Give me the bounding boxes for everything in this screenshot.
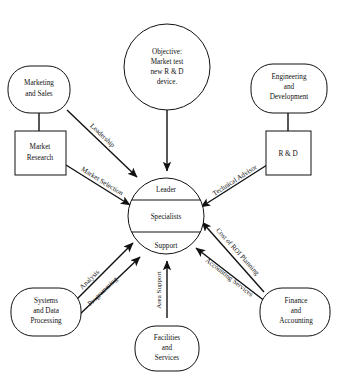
- node-finance-and-accounting: Finance and Accounting: [260, 288, 330, 336]
- node-facilities-line-2: Services: [155, 354, 180, 362]
- edge-leadership: [67, 110, 137, 177]
- node-r-and-d: R & D: [266, 131, 311, 175]
- edge-market-selection: [66, 165, 130, 205]
- node-objective-line-1: Market test: [151, 58, 184, 66]
- node-finance-line-1: and: [291, 307, 302, 315]
- center-band-specialists: Specialists: [151, 213, 182, 221]
- network-diagram: Objective: Market test new R & D device.…: [0, 0, 338, 383]
- svg-text:Leadership: Leadership: [88, 122, 116, 150]
- edge-label-area-support: Area Support: [155, 271, 163, 309]
- node-objective-line-0: Objective:: [152, 48, 182, 56]
- center-band-support: Support: [155, 242, 178, 250]
- node-marketing-line-1: and Sales: [25, 90, 53, 98]
- edge-label-analysis: Analysis: [78, 268, 101, 291]
- node-market-research-line-1: Research: [27, 154, 54, 162]
- edge-technical-advisor: [201, 165, 267, 207]
- svg-text:Analysis: Analysis: [78, 268, 101, 291]
- node-finance-line-0: Finance: [285, 297, 308, 305]
- node-engineering-line-0: Engineering: [271, 73, 307, 81]
- node-center-team: Leader Specialists Support: [128, 178, 204, 254]
- diagram-canvas: Objective: Market test new R & D device.…: [0, 0, 338, 383]
- center-band-leader: Leader: [156, 186, 177, 194]
- node-facilities-line-0: Facilities: [154, 334, 181, 342]
- node-engineering-line-2: Development: [270, 93, 309, 101]
- node-systems-and-data-processing: Systems and Data Processing: [11, 288, 81, 336]
- node-marketing-line-0: Marketing: [24, 79, 54, 87]
- node-objective-line-3: device.: [157, 78, 178, 86]
- node-engineering-and-development: Engineering and Development: [251, 64, 327, 113]
- edge-label-market-selection: Market Selection: [80, 165, 125, 197]
- svg-text:Market Selection: Market Selection: [80, 165, 125, 197]
- node-objective: Objective: Market test new R & D device.: [124, 24, 210, 110]
- edge-label-technical-advisor: Technical Advisor: [211, 163, 259, 198]
- node-systems-line-1: and Data: [33, 307, 60, 315]
- node-market-research-line-0: Market: [30, 143, 51, 151]
- node-systems-line-2: Processing: [30, 317, 62, 325]
- node-finance-line-2: Accounting: [279, 317, 313, 325]
- edge-label-leadership: Leadership: [88, 122, 116, 150]
- node-market-research: Market Research: [15, 131, 66, 175]
- node-marketing-and-sales: Marketing and Sales: [8, 66, 70, 113]
- node-systems-line-0: Systems: [34, 297, 58, 305]
- node-r-and-d-line-0: R & D: [278, 150, 297, 158]
- node-objective-line-2: new R & D: [151, 68, 184, 76]
- node-engineering-line-1: and: [284, 83, 295, 91]
- node-facilities-and-services: Facilities and Services: [135, 326, 199, 371]
- svg-text:Area Support: Area Support: [155, 271, 163, 309]
- node-facilities-line-1: and: [162, 344, 173, 352]
- svg-text:Technical Advisor: Technical Advisor: [211, 163, 259, 198]
